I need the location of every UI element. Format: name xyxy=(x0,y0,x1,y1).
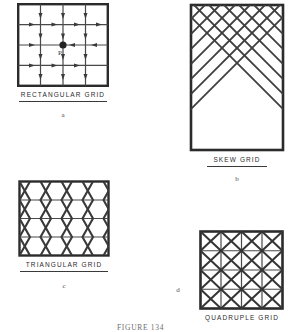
panel-triangular-grid xyxy=(18,180,110,257)
sublabel-c: c xyxy=(18,283,110,290)
caption-rule-c xyxy=(20,271,108,272)
figure-page: P RECTANGULAR GRID a xyxy=(0,0,299,332)
point-p-label: P xyxy=(58,49,62,57)
sublabel-d: d xyxy=(173,287,183,294)
caption-rule-a xyxy=(19,101,107,102)
caption-rule-b xyxy=(207,166,267,167)
caption-skew-grid: SKEW GRID xyxy=(189,157,285,164)
panel-quadruple-grid xyxy=(199,230,284,310)
caption-quadruple-grid: QUADRUPLE GRID xyxy=(196,315,288,322)
triangular-grid-drawing xyxy=(18,180,110,257)
sublabel-b: b xyxy=(189,176,285,183)
panel-skew-grid xyxy=(189,3,285,152)
caption-rectangular-grid: RECTANGULAR GRID xyxy=(17,92,109,99)
point-p-marker xyxy=(59,41,66,48)
panel-rectangular-grid: P xyxy=(17,3,109,87)
skew-grid-drawing xyxy=(189,3,285,152)
figure-caption: FIGURE 134 xyxy=(117,323,164,332)
sublabel-a: a xyxy=(17,112,109,119)
rectangular-grid-drawing: P xyxy=(17,3,109,87)
quadruple-grid-drawing xyxy=(199,230,284,310)
grid-border xyxy=(191,5,283,150)
caption-triangular-grid: TRIANGULAR GRID xyxy=(18,262,110,269)
